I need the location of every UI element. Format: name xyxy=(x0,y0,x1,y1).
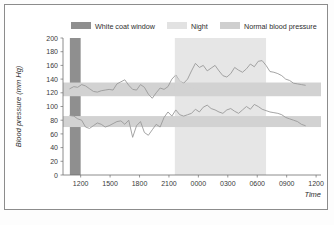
legend-label-2: Normal blood pressure xyxy=(244,22,317,31)
y-tick-label: 200 xyxy=(46,35,58,42)
x-tick-label: 1200 xyxy=(308,180,324,187)
y-tick-label: 120 xyxy=(46,89,58,96)
blood-pressure-chart: 0204060801001201401601802001200150018002… xyxy=(5,5,327,209)
legend-swatch-0 xyxy=(71,22,91,29)
y-tick-label: 20 xyxy=(50,158,58,165)
x-tick-label: 1800 xyxy=(132,180,148,187)
x-tick-label: 1200 xyxy=(73,180,89,187)
x-tick-label: 0000 xyxy=(191,180,207,187)
y-tick-label: 140 xyxy=(46,76,58,83)
y-tick-label: 60 xyxy=(50,131,58,138)
y-tick-label: 40 xyxy=(50,144,58,151)
y-tick-label: 0 xyxy=(54,172,58,179)
x-tick-label: 1500 xyxy=(102,180,118,187)
y-axis-title: Blood pressure (mm Hg) xyxy=(14,65,23,147)
band-normal-diastolic xyxy=(63,116,321,127)
legend-swatch-2 xyxy=(220,22,240,29)
chart-frame: 0204060801001201401601802001200150018002… xyxy=(4,4,328,210)
band-white-coat-window xyxy=(70,38,81,175)
x-tick-label: 0300 xyxy=(220,180,236,187)
x-tick-label: 2100 xyxy=(161,180,177,187)
y-tick-label: 100 xyxy=(46,103,58,110)
x-tick-label: 0900 xyxy=(279,180,295,187)
legend-swatch-1 xyxy=(167,22,187,29)
x-tick-label: 0600 xyxy=(249,180,265,187)
y-tick-label: 80 xyxy=(50,117,58,124)
y-tick-label: 160 xyxy=(46,62,58,69)
figure-canvas: 0204060801001201401601802001200150018002… xyxy=(0,0,334,225)
legend-label-0: White coat window xyxy=(95,22,156,31)
x-axis-title: Time xyxy=(304,190,321,199)
legend-label-1: Night xyxy=(191,22,208,31)
y-tick-label: 180 xyxy=(46,48,58,55)
